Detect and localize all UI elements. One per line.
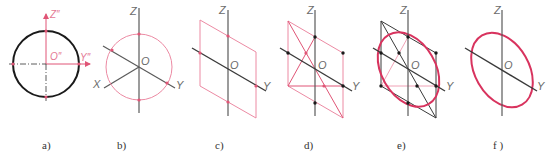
point (379, 51, 382, 54)
point (341, 51, 344, 54)
point (137, 98, 140, 101)
point (110, 48, 113, 51)
point (434, 84, 437, 87)
point (198, 51, 201, 54)
label-x: X (92, 78, 101, 90)
point (434, 51, 437, 54)
point (165, 81, 168, 84)
point (406, 35, 409, 38)
label-y: Y (176, 79, 184, 91)
label-z: Z (129, 5, 138, 17)
point (226, 100, 229, 103)
label-o: O (504, 59, 513, 71)
y-axis (280, 48, 352, 91)
panel-f: Z O Y f ) (459, 4, 546, 152)
point (406, 101, 409, 104)
caption-a: a) (42, 139, 51, 152)
isometric-circle-construction-diagram: Z″ O″ Y″ a) Z O X Y b) Z O Y c) (0, 0, 550, 161)
label-o: O (318, 59, 327, 71)
point (313, 35, 316, 38)
point (379, 84, 382, 87)
panel-c: Z O Y c) (192, 4, 271, 152)
point (313, 101, 316, 104)
panel-d: Z O Y d) (280, 4, 360, 152)
panel-e: Z O Y e) (365, 4, 454, 152)
label-y: Y (537, 80, 545, 92)
label-z: Z (399, 4, 408, 16)
point (397, 51, 400, 54)
y-axis (192, 48, 266, 91)
label-y: Y (446, 80, 454, 92)
tangent-point (44, 29, 47, 32)
label-y: Y (263, 80, 271, 92)
caption-c: c) (215, 139, 224, 152)
ellipse-center-point (322, 84, 325, 87)
caption-e: e) (397, 139, 406, 152)
panel-a: Z″ O″ Y″ a) (9, 9, 91, 152)
caption-d: d) (304, 139, 314, 152)
label-z: Z (218, 4, 227, 16)
label-z: Z (306, 4, 315, 16)
tangent-point (44, 95, 47, 98)
point (137, 32, 140, 35)
label-z: Z″ (49, 9, 60, 20)
caption-f: f ) (493, 139, 503, 152)
label-o: O″ (50, 51, 62, 62)
y-axis (373, 48, 445, 91)
x-axis (104, 67, 139, 88)
panel-b: Z O X Y b) (92, 5, 184, 152)
label-o: O (230, 59, 239, 71)
point (415, 84, 418, 87)
label-o: O (411, 59, 420, 71)
label-y: Y (352, 80, 360, 92)
label-y: Y″ (80, 52, 91, 63)
point (254, 84, 257, 87)
point (286, 51, 289, 54)
caption-b: b) (117, 139, 127, 152)
label-z: Z (493, 4, 502, 16)
point (341, 84, 344, 87)
point (226, 34, 229, 37)
tangent-point (11, 62, 14, 65)
ellipse-center-point (304, 51, 307, 54)
label-o: O (141, 55, 150, 67)
y-axis (465, 48, 537, 91)
